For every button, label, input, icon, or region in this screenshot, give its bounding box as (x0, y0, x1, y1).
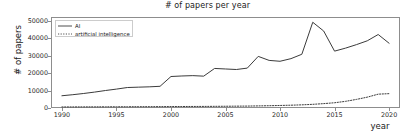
legend-label-0: AI (75, 23, 80, 29)
x-tick-mark (62, 108, 63, 111)
x-tick-mark (389, 108, 390, 111)
x-tick-mark (335, 108, 336, 111)
chart-legend: AI artificial intelligence (55, 20, 133, 37)
legend-label-1: artificial intelligence (75, 31, 130, 37)
legend-item-0: AI (58, 23, 130, 30)
legend-line-dotted-icon (58, 31, 72, 37)
x-tick-mark (280, 108, 281, 111)
legend-item-1: artificial intelligence (58, 30, 130, 37)
x-tick-label: 1995 (96, 111, 136, 119)
x-tick-mark (226, 108, 227, 111)
x-tick-label: 2000 (151, 111, 191, 119)
x-tick-label: 2020 (369, 111, 409, 119)
x-tick-label: 1990 (42, 111, 82, 119)
x-axis-label: year (355, 121, 405, 131)
x-tick-mark (116, 108, 117, 111)
series-line-1 (62, 94, 389, 107)
x-tick-label: 2010 (260, 111, 300, 119)
chart-page: # of papers per year # of papers 0100002… (0, 0, 415, 138)
x-tick-label: 2015 (315, 111, 355, 119)
x-tick-mark (171, 108, 172, 111)
x-tick-label: 2005 (206, 111, 246, 119)
legend-line-solid-icon (58, 23, 72, 29)
